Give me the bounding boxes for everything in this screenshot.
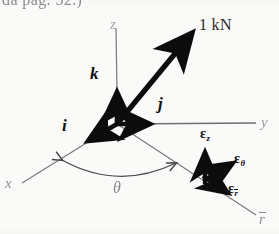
theta-arc [62,160,176,176]
figure-container: da pag. 52.) [0,0,279,234]
axis-label-y: y [261,115,268,130]
axis-label-rbar-glyph: r [259,212,265,227]
unit-vector-label-k: k [90,65,99,82]
eps-rbar-arrow [203,176,228,193]
eps-rbar-subscript: r [234,189,237,198]
eps-z-subscript: z [206,133,209,143]
axis-label-x: x [5,176,12,191]
force-vector-label: 1 kN [199,17,232,33]
force-vector-arrow [117,33,192,124]
unit-vector-label-i: i [62,117,67,134]
coordinate-diagram [0,0,279,234]
unit-vector-label-j: j [158,95,163,112]
eps-theta-subscript: θ [240,158,245,168]
unit-vector-i-arrow [88,124,117,141]
axis-line-rbar [117,124,256,215]
eps-theta-label: εθ [234,152,245,167]
axis-label-z: z [110,17,116,32]
eps-rbar-symbol: ε [228,181,234,196]
eps-z-label: εz [200,127,210,142]
angle-label-theta: θ [113,180,121,196]
eps-rbar-label: εr [228,182,238,197]
axis-label-rbar: r [259,212,265,227]
eps-theta-arrow [205,163,233,180]
